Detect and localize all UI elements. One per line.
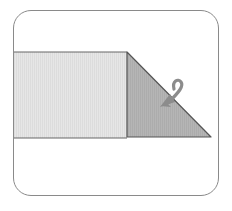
paper-strip xyxy=(14,52,127,138)
origami-diagram xyxy=(0,0,232,211)
folded-corner-triangle xyxy=(127,52,211,137)
